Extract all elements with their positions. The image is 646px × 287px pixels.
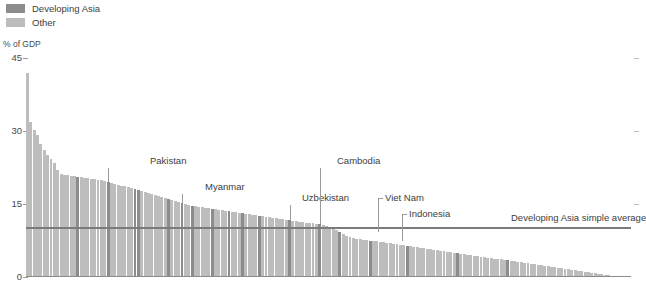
y-tick-label-0: 0: [0, 271, 22, 282]
legend-label-developing-asia: Developing Asia: [32, 3, 100, 14]
callout-leader-vertical: [108, 168, 109, 182]
callout-label-myanmar: Myanmar: [205, 181, 245, 192]
x-axis-baseline: [26, 276, 631, 277]
legend-swatch-developing-asia: [6, 4, 25, 13]
average-line: [26, 227, 631, 229]
legend-item-developing-asia: Developing Asia: [6, 2, 100, 15]
callout-leader-vertical: [320, 168, 321, 224]
callout-label-indonesia: Indonesia: [409, 208, 450, 219]
y-tick-mark-right: [634, 58, 639, 59]
callout-label-pakistan: Pakistan: [150, 155, 186, 166]
callout-leader-vertical: [182, 194, 183, 203]
callout-leader-vertical: [290, 205, 291, 220]
y-tick-mark-right: [634, 204, 639, 205]
callout-label-uzbekistan: Uzbekistan: [302, 192, 349, 203]
y-tick-mark-right: [634, 131, 639, 132]
average-line-label: Developing Asia simple average: [511, 212, 646, 223]
y-tick-label-15: 15: [0, 198, 22, 209]
y-tick-label-30: 30: [0, 125, 22, 136]
callout-leader-vertical: [402, 214, 403, 241]
legend-swatch-other: [6, 18, 25, 27]
callout-label-viet-nam: Viet Nam: [385, 192, 424, 203]
bar-series: [26, 58, 631, 277]
y-axis-title: % of GDP: [3, 39, 41, 49]
y-tick-label-45: 45: [0, 52, 22, 63]
y-tick-mark-left: [23, 277, 28, 278]
callout-leader-vertical: [378, 198, 379, 232]
callout-label-cambodia: Cambodia: [337, 155, 380, 166]
legend-item-other: Other: [6, 16, 100, 29]
legend-label-other: Other: [32, 17, 56, 28]
legend: Developing Asia Other: [6, 2, 100, 30]
plot-area: [26, 58, 631, 277]
